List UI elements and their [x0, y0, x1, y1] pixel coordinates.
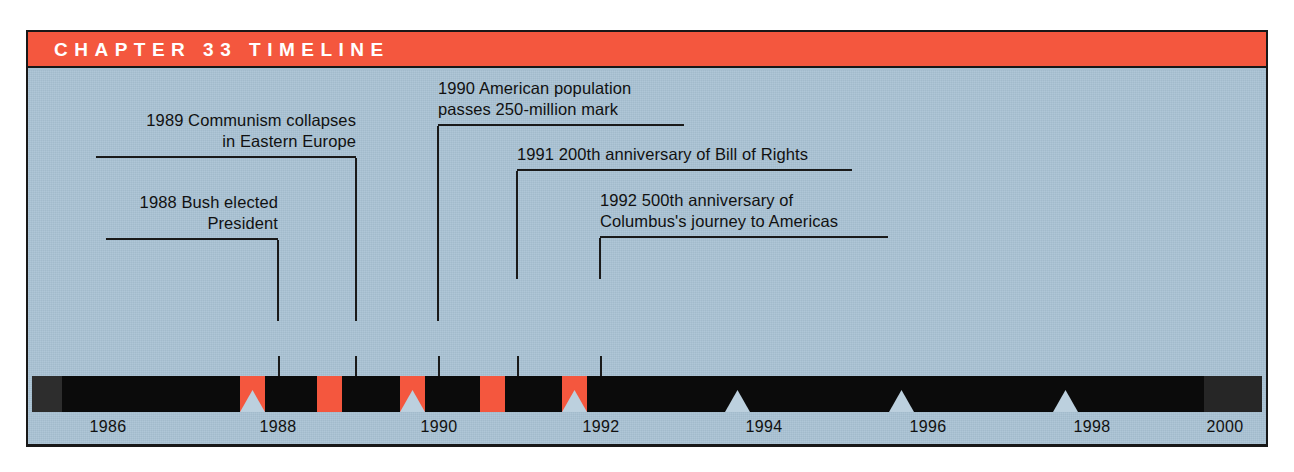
callout-1990-line-1: 1990 American population — [438, 78, 684, 99]
page-title: CHAPTER 33 TIMELINE — [54, 40, 390, 60]
event-marker-1988[interactable] — [240, 376, 265, 412]
callout-1992-rule — [600, 236, 888, 238]
bar-right-endcap — [1204, 376, 1262, 412]
callout-1990-leader — [437, 126, 439, 321]
axis-label-1990: 1990 — [421, 418, 458, 436]
callout-1992-text: 1992 500th anniversary of Columbus's jou… — [600, 190, 888, 232]
callout-1992: 1992 500th anniversary of Columbus's jou… — [600, 190, 888, 238]
callout-1989: 1989 Communism collapses in Eastern Euro… — [96, 110, 356, 158]
callout-1989-line-2: in Eastern Europe — [96, 131, 356, 152]
callout-1990: 1990 American population passes 250-mill… — [438, 78, 684, 126]
callout-1989-leader — [355, 158, 357, 321]
timeline-axis: 1986 1988 1990 1992 1994 1996 1998 2000 — [28, 418, 1266, 444]
bar-left-endcap — [32, 376, 62, 412]
event-marker-1990[interactable] — [400, 376, 425, 412]
callout-1991-rule — [517, 169, 852, 171]
callout-1992-line-1: 1992 500th anniversary of — [600, 190, 888, 211]
axis-notch-1994 — [725, 390, 750, 412]
axis-notch-1996 — [889, 390, 914, 412]
axis-label-2000: 2000 — [1207, 418, 1244, 436]
callout-1991-line-1: 1991 200th anniversary of Bill of Rights — [517, 144, 852, 165]
axis-label-1996: 1996 — [910, 418, 947, 436]
tick-stub-1989 — [355, 356, 357, 376]
axis-label-1992: 1992 — [583, 418, 620, 436]
callout-1988-leader — [277, 240, 279, 321]
callout-1990-line-2: passes 250-million mark — [438, 99, 684, 120]
event-marker-1992[interactable] — [562, 376, 587, 412]
callout-1990-text: 1990 American population passes 250-mill… — [438, 78, 684, 120]
axis-label-1988: 1988 — [260, 418, 297, 436]
callout-1990-rule — [438, 124, 684, 126]
event-marker-1991[interactable] — [480, 376, 505, 412]
callout-1991-leader — [516, 171, 518, 279]
callout-1989-text: 1989 Communism collapses in Eastern Euro… — [96, 110, 356, 152]
timeline-figure: CHAPTER 33 TIMELINE 1989 Communism colla… — [26, 30, 1268, 447]
callout-1988-text: 1988 Bush elected President — [106, 192, 278, 234]
axis-label-1986: 1986 — [90, 418, 127, 436]
timeline-canvas: 1989 Communism collapses in Eastern Euro… — [28, 70, 1266, 444]
callout-1989-line-1: 1989 Communism collapses — [96, 110, 356, 131]
callout-1988-line-2: President — [106, 213, 278, 234]
axis-notch-1998 — [1053, 390, 1078, 412]
callout-1988-rule — [106, 238, 278, 240]
callout-1991-text: 1991 200th anniversary of Bill of Rights — [517, 144, 852, 165]
tick-stub-1988 — [278, 356, 280, 376]
callout-1988-line-1: 1988 Bush elected — [106, 192, 278, 213]
callout-1988: 1988 Bush elected President — [106, 192, 278, 240]
callout-1989-rule — [96, 156, 356, 158]
axis-label-1994: 1994 — [746, 418, 783, 436]
callout-1992-leader — [599, 238, 601, 279]
timeline-bar — [32, 376, 1262, 412]
chapter-header-band: CHAPTER 33 TIMELINE — [28, 32, 1266, 68]
tick-stub-1992 — [600, 356, 602, 376]
event-marker-1989[interactable] — [317, 376, 342, 412]
callout-1991: 1991 200th anniversary of Bill of Rights — [517, 144, 852, 171]
tick-stub-1990 — [438, 356, 440, 376]
callout-1992-line-2: Columbus's journey to Americas — [600, 211, 888, 232]
axis-label-1998: 1998 — [1074, 418, 1111, 436]
tick-stub-1991 — [517, 356, 519, 376]
